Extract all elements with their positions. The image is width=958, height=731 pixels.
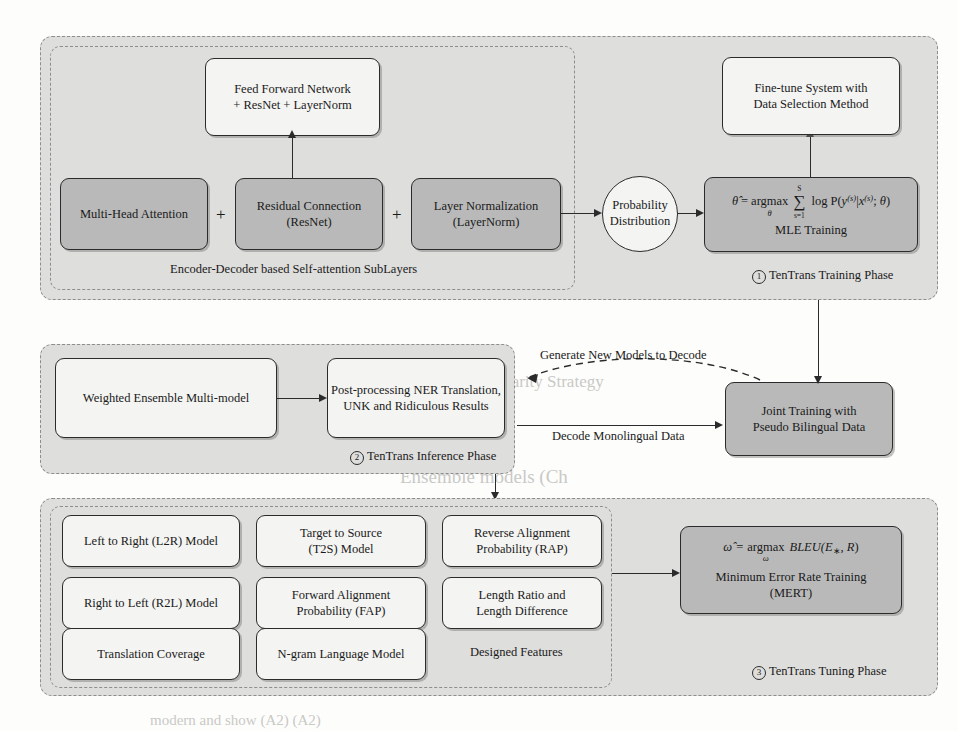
- weighted-ensemble-label: Weighted Ensemble Multi-model: [83, 390, 249, 406]
- multi-head-attention-label: Multi-Head Attention: [80, 206, 188, 222]
- edge-residual-to-ffn: [292, 136, 293, 178]
- layernorm-line1: Layer Normalization: [434, 198, 538, 214]
- edge-layernorm-to-probability: [561, 213, 594, 214]
- node-layer-normalization[interactable]: Layer Normalization (LayerNorm): [411, 178, 561, 250]
- node-feed-forward-network[interactable]: Feed Forward Network + ResNet + LayerNor…: [205, 58, 380, 136]
- feed-forward-line1: Feed Forward Network: [233, 81, 352, 97]
- edge-decode-monolingual: [517, 425, 717, 426]
- phase1-caption-number: 1: [752, 270, 766, 284]
- layernorm-line2: (LayerNorm): [434, 214, 538, 230]
- edge-label-decode-monolingual: Decode Monolingual Data: [552, 429, 685, 444]
- background-text-10: modern and show (A2) (A2): [150, 712, 321, 729]
- subgroup-caption-designed-features: Designed Features: [470, 645, 563, 660]
- edge-decode-monolingual-arrowhead: [715, 421, 723, 429]
- subgroup-caption-self-attention: Encoder-Decoder based Self-attention Sub…: [170, 262, 417, 277]
- feature-4-line1: Forward Alignment: [292, 587, 390, 603]
- node-probability-distribution[interactable]: Probability Distribution: [602, 176, 678, 252]
- probability-line1: Probability: [610, 198, 670, 214]
- joint-training-line1: Joint Training with: [753, 403, 866, 419]
- feature-7-line1: N-gram Language Model: [277, 646, 404, 662]
- residual-line2: (ResNet): [257, 214, 362, 230]
- edge-generate-models-arrowhead: [527, 374, 538, 383]
- feature-2-line1: Reverse Alignment: [474, 525, 570, 541]
- feature-1-line2: (T2S) Model: [300, 541, 382, 557]
- joint-training-line2: Pseudo Bilingual Data: [753, 419, 866, 435]
- mert-caption-line1: Minimum Error Rate Training: [715, 569, 866, 585]
- feed-forward-line2: + ResNet + LayerNorm: [233, 97, 352, 113]
- phase3-caption-text: TenTrans Tuning Phase: [769, 664, 886, 678]
- node-mle-training[interactable]: θ̂=argmaxθ∑Ss=1logP(y(s)|x(s); θ) MLE Tr…: [704, 177, 918, 252]
- feature-1-line1: Target to Source: [300, 525, 382, 541]
- mle-formula: θ̂=argmaxθ∑Ss=1logP(y(s)|x(s); θ): [732, 191, 890, 213]
- node-feature-7[interactable]: N-gram Language Model: [256, 628, 426, 680]
- node-feature-0[interactable]: Left to Right (L2R) Model: [62, 515, 240, 567]
- node-feature-5[interactable]: Length Ratio andLength Difference: [442, 577, 602, 629]
- phase1-caption-text: TenTrans Training Phase: [769, 268, 893, 282]
- node-post-processing[interactable]: Post-processing NER Translation, UNK and…: [327, 358, 505, 438]
- mle-training-caption: MLE Training: [732, 222, 890, 238]
- edge-probability-to-mle-arrowhead: [696, 209, 704, 217]
- postprocessing-line2: UNK and Ridiculous Results: [331, 398, 501, 414]
- feature-3-line1: Right to Left (R2L) Model: [84, 595, 218, 611]
- edge-ensemble-to-postprocessing-arrowhead: [319, 394, 327, 402]
- edge-residual-to-ffn-arrowhead: [288, 130, 296, 138]
- operator-plus-2: +: [392, 206, 402, 223]
- node-multi-head-attention[interactable]: Multi-Head Attention: [60, 178, 208, 250]
- node-weighted-ensemble[interactable]: Weighted Ensemble Multi-model: [55, 358, 277, 438]
- node-feature-6[interactable]: Translation Coverage: [62, 628, 240, 680]
- feature-6-line1: Translation Coverage: [97, 646, 205, 662]
- feature-2-line2: Probability (RAP): [474, 541, 570, 557]
- finetune-line2: Data Selection Method: [753, 96, 868, 112]
- node-feature-2[interactable]: Reverse AlignmentProbability (RAP): [442, 515, 602, 567]
- mert-caption-line2: (MERT): [715, 585, 866, 601]
- phase3-caption: 3TenTrans Tuning Phase: [752, 664, 886, 680]
- edge-label-generate-models: Generate New Models to Decode: [540, 348, 707, 363]
- finetune-line1: Fine-tune System with: [753, 80, 868, 96]
- node-feature-1[interactable]: Target to Source(T2S) Model: [256, 515, 426, 567]
- phase1-caption: 1TenTrans Training Phase: [752, 268, 893, 284]
- probability-line2: Distribution: [610, 214, 670, 230]
- residual-line1: Residual Connection: [257, 198, 362, 214]
- edge-probability-to-mle: [678, 213, 698, 214]
- phase2-caption-text: TenTrans Inference Phase: [367, 449, 496, 463]
- edge-features-to-mert: [612, 573, 674, 574]
- node-finetune-system[interactable]: Fine-tune System with Data Selection Met…: [722, 57, 900, 135]
- node-residual-connection[interactable]: Residual Connection (ResNet): [235, 178, 383, 250]
- edge-mle-to-finetune: [810, 135, 811, 177]
- phase2-caption-number: 2: [350, 451, 364, 465]
- edge-ensemble-to-postprocessing: [277, 398, 321, 399]
- phase3-caption-number: 3: [752, 666, 766, 680]
- node-feature-3[interactable]: Right to Left (R2L) Model: [62, 577, 240, 629]
- feature-4-line2: Probability (FAP): [292, 603, 390, 619]
- edge-layernorm-to-probability-arrowhead: [594, 209, 602, 217]
- edge-features-to-mert-arrowhead: [672, 569, 680, 577]
- postprocessing-line1: Post-processing NER Translation,: [331, 382, 501, 398]
- node-joint-training[interactable]: Joint Training with Pseudo Bilingual Dat…: [725, 382, 893, 456]
- node-feature-4[interactable]: Forward AlignmentProbability (FAP): [256, 577, 426, 629]
- node-mert[interactable]: ω̂=argmaxωBLEU(E∗, R) Minimum Error Rate…: [680, 526, 902, 614]
- edge-training-to-joint: [818, 300, 819, 376]
- feature-0-line1: Left to Right (L2R) Model: [84, 533, 218, 549]
- mert-formula: ω̂=argmaxωBLEU(E∗, R): [715, 539, 866, 557]
- edge-training-to-joint-arrowhead: [814, 376, 822, 384]
- phase2-caption: 2TenTrans Inference Phase: [350, 449, 496, 465]
- feature-5-line2: Length Difference: [476, 603, 568, 619]
- figure-canvas: is evaluated on theand multilingualsyste…: [0, 0, 958, 731]
- feature-5-line1: Length Ratio and: [476, 587, 568, 603]
- operator-plus-1: +: [216, 206, 226, 223]
